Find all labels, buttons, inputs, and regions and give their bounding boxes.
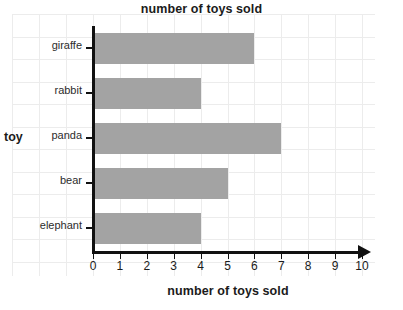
bar-row: elephant: [93, 206, 363, 251]
y-axis-category-label: giraffe: [52, 39, 82, 51]
chart-title: number of toys sold: [0, 2, 403, 16]
bar-bear: [93, 168, 228, 199]
bar-chart-figure: number of toys sold girafferabbitpandabe…: [0, 0, 403, 310]
x-axis-tick-label: 3: [170, 259, 177, 273]
y-axis-category-label: bear: [60, 174, 82, 186]
x-axis-tick-label: 0: [90, 259, 97, 273]
bar-rabbit: [93, 78, 201, 109]
x-axis-tick-label: 7: [278, 259, 285, 273]
y-axis-category-label: rabbit: [54, 84, 82, 96]
bar-row: bear: [93, 161, 363, 206]
y-axis-category-label: elephant: [40, 219, 82, 231]
x-axis-tick-label: 10: [355, 259, 368, 273]
gridline-vertical: [66, 14, 67, 276]
x-axis-tick-label: 5: [224, 259, 231, 273]
x-axis-tick-label: 9: [332, 259, 339, 273]
x-axis-tick-label: 2: [143, 259, 150, 273]
x-axis-tick-label: 4: [197, 259, 204, 273]
gridline-horizontal: [12, 262, 375, 263]
x-axis-line: [92, 251, 360, 254]
bar-giraffe: [93, 33, 254, 64]
y-axis-line: [92, 26, 95, 254]
x-axis-tick-label: 6: [251, 259, 258, 273]
x-axis-arrow-icon: [358, 245, 371, 259]
gridline-vertical: [12, 14, 13, 276]
y-axis-title: toy: [4, 130, 23, 144]
x-axis-tick-label: 1: [117, 259, 124, 273]
plot-area: girafferabbitpandabearelephant: [93, 26, 363, 251]
bar-row: panda: [93, 116, 363, 161]
bar-elephant: [93, 213, 201, 244]
bar-row: rabbit: [93, 71, 363, 116]
bar-row: giraffe: [93, 26, 363, 71]
gridline-vertical: [39, 14, 40, 276]
x-axis-title: number of toys sold: [93, 284, 363, 298]
x-axis-tick-label: 8: [305, 259, 312, 273]
y-axis-category-label: panda: [51, 129, 82, 141]
bar-panda: [93, 123, 281, 154]
